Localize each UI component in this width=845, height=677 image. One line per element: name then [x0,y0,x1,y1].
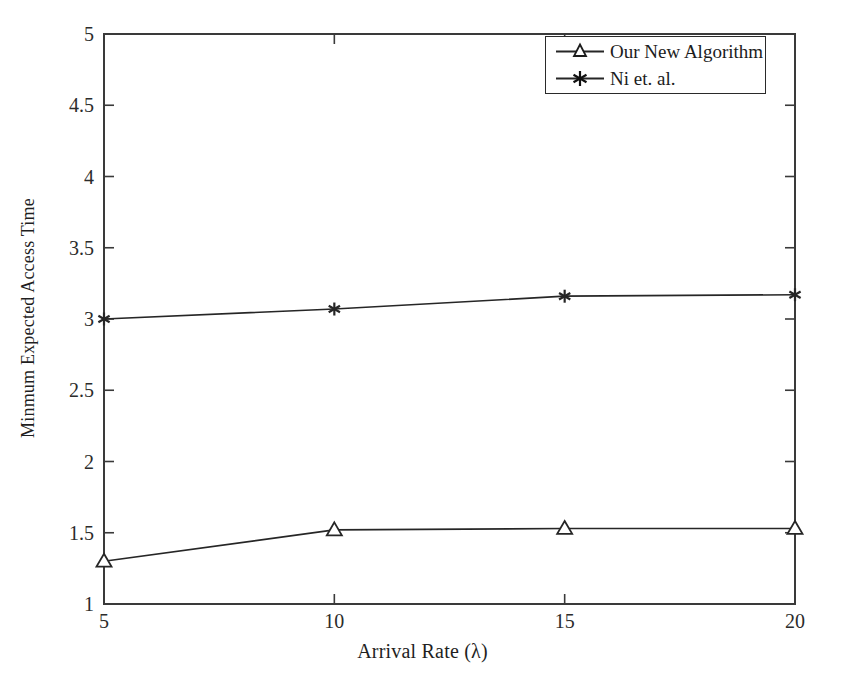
legend-entry-ni-et-al: Ni et. al. [546,64,767,93]
y-tick-label-text: 1.5 [48,523,94,543]
y-tick-label: 4.5 [0,95,94,115]
legend-entry-our-new-algorithm: Our New Algorithm [546,37,767,66]
y-tick-label-text: 2 [48,452,94,472]
x-axis-title: Arrival Rate (λ) [0,640,845,663]
legend-label: Our New Algorithm [610,40,763,64]
x-tick-label: 15 [535,611,595,631]
plot-frame [104,34,795,604]
chart-figure: 11.522.533.544.55 5101520 Minmum Expecte… [0,0,845,677]
y-tick-label-text: 3.5 [48,238,94,258]
legend-marker-triangle-open-icon [554,37,606,66]
y-tick-label-text: 4 [48,167,94,187]
x-tick-label: 10 [304,611,364,631]
y-tick-label: 2.5 [0,380,94,400]
y-tick-label-text: 4.5 [48,95,94,115]
chart-legend: Our New Algorithm Ni et. al. [545,36,766,94]
y-tick-label: 4 [0,167,94,187]
y-tick-label-text: 3 [48,309,94,329]
x-tick-label: 5 [74,611,134,631]
y-tick-label-text: 5 [48,24,94,44]
legend-marker-asterisk-icon [554,64,606,93]
plot-canvas [0,0,845,677]
y-tick-label: 5 [0,24,94,44]
y-tick-label-group: 11.522.533.544.55 [46,0,94,677]
y-tick-label: 3 [0,309,94,329]
y-tick-label: 1.5 [0,523,94,543]
y-tick-label: 3.5 [0,238,94,258]
legend-label: Ni et. al. [610,67,675,91]
y-tick-label-text: 2.5 [48,380,94,400]
x-tick-label: 20 [765,611,825,631]
y-tick-label: 2 [0,452,94,472]
